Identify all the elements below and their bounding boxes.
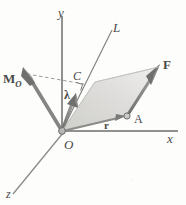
y-axis-label: y — [58, 6, 64, 19]
moment-vector-symbol: M — [3, 71, 15, 86]
moment-vector-label: MO — [3, 72, 22, 88]
moment-vector-diagram: y x z L MO C λ F A r O — [0, 0, 186, 205]
x-axis-label: x — [167, 132, 173, 145]
point-C-label: C — [73, 70, 81, 82]
right-angle-mark — [77, 83, 83, 91]
diagram-canvas — [0, 0, 186, 205]
force-vector-label: F — [163, 58, 171, 71]
lambda-vector-label: λ — [64, 89, 70, 101]
point-A-marker — [124, 113, 130, 119]
z-axis-line — [13, 133, 63, 194]
point-A-label: A — [134, 113, 143, 125]
position-vector-label: r — [104, 120, 109, 131]
moment-vector-subscript: O — [15, 79, 21, 89]
origin-label: O — [64, 138, 73, 151]
z-axis-label: z — [6, 188, 11, 200]
line-L-label: L — [113, 21, 120, 34]
